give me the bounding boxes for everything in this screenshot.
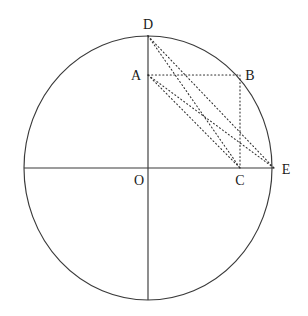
point-label-B: B: [245, 68, 254, 83]
point-label-D: D: [143, 17, 153, 32]
segment-AE: [148, 75, 274, 168]
segment-DC: [148, 36, 240, 168]
point-label-A: A: [131, 68, 142, 83]
point-label-E: E: [282, 162, 291, 177]
point-label-C: C: [235, 173, 244, 188]
point-label-O: O: [134, 173, 144, 188]
geometry-figure: D A B O C E: [0, 0, 308, 316]
geometry-canvas: D A B O C E: [0, 0, 308, 316]
segment-AC: [148, 75, 240, 168]
